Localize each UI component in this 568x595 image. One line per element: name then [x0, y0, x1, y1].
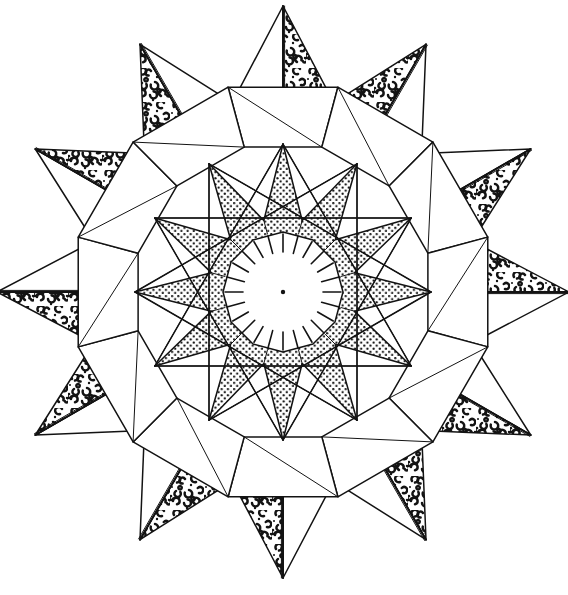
- rim-quad: [428, 237, 488, 347]
- figure-root: Stellated polyhedron compound Hand-drawn…: [0, 0, 568, 595]
- outer-rim-facet: [428, 237, 488, 347]
- outer-rim-facet: [228, 437, 338, 497]
- rim-quad: [78, 237, 138, 347]
- stellated-polyhedron-figure: Stellated polyhedron compound Hand-drawn…: [0, 0, 568, 595]
- outer-rim-facet: [78, 237, 138, 347]
- outer-rim-facet: [228, 87, 338, 147]
- rim-quad: [228, 437, 338, 497]
- rim-quad: [228, 87, 338, 147]
- center-dot: [281, 290, 285, 294]
